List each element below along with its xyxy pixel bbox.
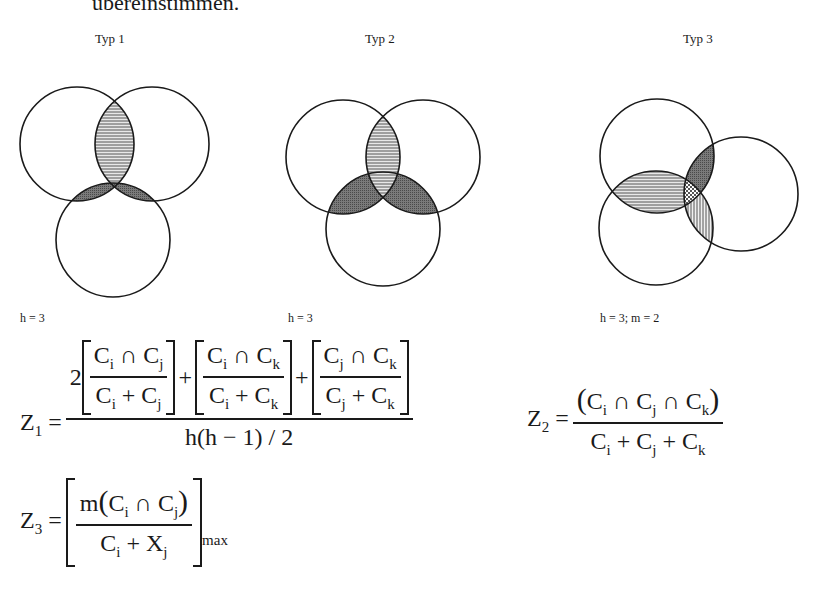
equals-sign: =	[555, 405, 569, 431]
formula-z3: Z3 = m(Ci ∩ Cj) Ci + Xj max	[20, 478, 228, 567]
z2-fraction: (Ci ∩ Cj ∩ Ck) Ci + Cj + Ck	[575, 382, 722, 459]
plus-sign: +	[295, 364, 309, 391]
z1-main-fraction: 2 Ci ∩ Cj Ci + Cj + Ci ∩ Ck Ci + Ck + Cj…	[68, 340, 411, 451]
z2-denominator: Ci + Cj + Ck	[573, 422, 724, 459]
equals-sign: =	[48, 507, 62, 533]
diagram-label-typ-2: h = 3	[288, 311, 313, 326]
z2-symbol: Z	[527, 405, 542, 431]
max-subscript: max	[202, 532, 228, 549]
z3-symbol: Z	[20, 507, 35, 533]
z1-denominator: h(h − 1) / 2	[66, 418, 413, 451]
equals-sign: =	[48, 409, 62, 435]
formula-z2: Z2 = (Ci ∩ Cj ∩ Ck) Ci + Cj + Ck	[527, 382, 721, 459]
circle-ck	[56, 183, 170, 297]
venn-typ-1	[20, 87, 209, 297]
bracket-term-ij: Ci ∩ Cj Ci + Cj	[82, 340, 176, 415]
z1-subscript: 1	[35, 423, 43, 439]
coefficient-2: 2	[70, 364, 82, 391]
diagram-label-typ-3: h = 3; m = 2	[600, 311, 659, 326]
venn-typ-3	[599, 99, 798, 285]
plus-sign: +	[178, 364, 192, 391]
z2-numerator: (Ci ∩ Cj ∩ Ck)	[575, 382, 722, 422]
formula-z1: Z1 = 2 Ci ∩ Cj Ci + Cj + Ci ∩ Ck Ci + Ck…	[20, 340, 411, 451]
bracket-term-jk: Cj ∩ Ck Cj + Ck	[312, 340, 409, 415]
diagram-label-typ-1: h = 3	[20, 311, 45, 326]
z2-subscript: 2	[542, 419, 550, 435]
z1-numerator: 2 Ci ∩ Cj Ci + Cj + Ci ∩ Ck Ci + Ck + Cj…	[68, 340, 411, 418]
z3-fraction: m(Ci ∩ Cj) Ci + Xj	[78, 484, 190, 561]
z3-denominator: Ci + Xj	[76, 524, 192, 561]
z3-numerator: m(Ci ∩ Cj)	[78, 484, 190, 524]
z1-symbol: Z	[20, 409, 35, 435]
bracket-term-ik: Ci ∩ Ck Ci + Ck	[195, 340, 292, 415]
venn-diagrams	[0, 0, 814, 330]
z3-bracket: m(Ci ∩ Cj) Ci + Xj	[66, 478, 202, 567]
z3-subscript: 3	[35, 521, 43, 537]
venn-typ-2	[286, 100, 480, 286]
